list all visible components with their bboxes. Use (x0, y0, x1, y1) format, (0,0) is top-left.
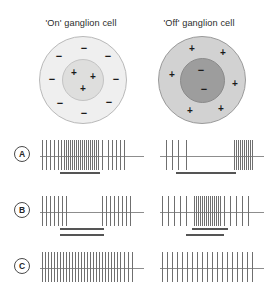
spike (232, 252, 233, 282)
stimulus-bar-a-off (176, 172, 236, 174)
surround-sign-plus-icon: + (220, 48, 226, 58)
spike (72, 140, 73, 170)
spike (242, 140, 243, 170)
center-sign-plus-icon: + (71, 68, 77, 78)
spike-train-b-on (40, 192, 144, 232)
surround-sign-minus-icon: − (105, 51, 111, 62)
spike (84, 252, 85, 282)
spike (76, 140, 77, 170)
spike (62, 196, 63, 226)
surround-sign-minus-icon: − (57, 98, 63, 109)
spike (86, 140, 87, 170)
spike (122, 196, 123, 226)
spike (98, 140, 99, 170)
retinal-ganglion-cell-figure: 'On' ganglion cell'Off' ganglion cell+++… (0, 0, 266, 292)
spike (48, 252, 49, 282)
center-sign-plus-icon: + (80, 84, 86, 94)
spike-train-c-off (160, 248, 264, 288)
spike (124, 140, 125, 170)
spike (218, 196, 219, 226)
surround-sign-minus-icon: − (56, 51, 62, 62)
spike (45, 252, 46, 282)
row-label-b: B (14, 202, 30, 218)
center-sign-minus-icon: − (201, 84, 207, 95)
baseline (40, 212, 144, 213)
spike (80, 140, 81, 170)
spike (111, 252, 112, 282)
spike (60, 252, 61, 282)
spike (186, 140, 187, 170)
spike (92, 140, 93, 170)
spike (194, 196, 195, 226)
surround-sign-plus-icon: + (187, 106, 193, 116)
spike (172, 140, 173, 170)
spike (196, 196, 197, 226)
spike (227, 252, 228, 282)
spike (206, 196, 207, 226)
spike (61, 140, 62, 170)
off-center-receptive-field: −−++++++ (158, 36, 246, 124)
spike (106, 196, 107, 226)
spike (250, 140, 251, 170)
spike (132, 252, 133, 282)
surround-sign-minus-icon: − (106, 97, 112, 108)
spike (177, 252, 178, 282)
spike (81, 252, 82, 282)
spike (117, 252, 118, 282)
spike (130, 196, 131, 226)
spike (178, 140, 179, 170)
spike (246, 140, 247, 170)
spike (236, 140, 237, 170)
spike (167, 252, 168, 282)
spike (75, 252, 76, 282)
spike (66, 252, 67, 282)
spike (180, 196, 181, 226)
spike (208, 196, 209, 226)
spike (50, 140, 51, 170)
spike (108, 140, 109, 170)
spike (186, 196, 187, 226)
spike (162, 196, 163, 226)
spike-train-b-off (160, 192, 264, 232)
spike (90, 252, 91, 282)
spike (238, 140, 239, 170)
spike (78, 252, 79, 282)
spike (69, 252, 70, 282)
spike (187, 252, 188, 282)
stimulus-bar-c-off (186, 234, 224, 236)
spike (82, 140, 83, 170)
spike (202, 252, 203, 282)
spike (207, 252, 208, 282)
spike (51, 252, 52, 282)
spike (66, 140, 67, 170)
spike (244, 140, 245, 170)
spike (174, 196, 175, 226)
surround-sign-minus-icon: − (81, 43, 87, 54)
spike (242, 196, 243, 226)
spike (128, 252, 129, 282)
spike (68, 140, 69, 170)
spike (237, 252, 238, 282)
spike (66, 196, 67, 226)
spike (204, 196, 205, 226)
spike (110, 196, 111, 226)
spike (216, 196, 217, 226)
spike (126, 196, 127, 226)
stimulus-bar-c-on (60, 234, 104, 236)
spike (114, 252, 115, 282)
spike (84, 140, 85, 170)
spike (114, 196, 115, 226)
spike (197, 252, 198, 282)
center-sign-plus-icon: + (90, 72, 96, 82)
spike (74, 140, 75, 170)
on-center-receptive-field: +++−−−−−−−− (39, 36, 127, 124)
spike (118, 196, 119, 226)
spike (202, 196, 203, 226)
column-title-off: 'Off' ganglion cell (134, 18, 264, 28)
spike (217, 252, 218, 282)
spike (166, 140, 167, 170)
spike (64, 140, 65, 170)
spike (90, 140, 91, 170)
spike (88, 140, 89, 170)
spike (63, 252, 64, 282)
